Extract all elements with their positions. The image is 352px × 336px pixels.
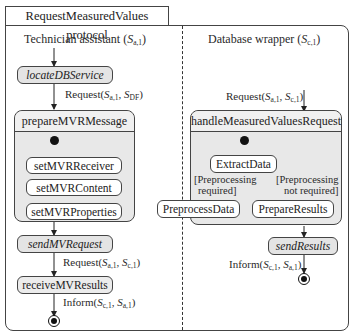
msg-sub: a,1 — [289, 263, 298, 272]
activity-label: ExtractData — [216, 158, 271, 170]
message-request-1: Request(Sa,1, SDF) — [65, 88, 143, 104]
message-request-2: Request(Sa,1, Sc,1) — [63, 256, 140, 272]
activity-label: PrepareResults — [259, 203, 328, 215]
activity-label: setMVRReceiver — [34, 160, 114, 172]
initial-node-icon — [240, 136, 249, 145]
activity-label: sendResults — [276, 240, 330, 252]
activity-label: receiveMVResults — [22, 279, 108, 291]
activity-label: sendMVRequest — [28, 238, 102, 250]
msg-sub: c,1 — [128, 261, 137, 270]
msg-sub: a,1 — [108, 261, 117, 270]
guard-line: [Preprocessing — [194, 174, 256, 185]
composite-title: handleMeasuredValuesRequest — [191, 111, 341, 132]
msg-sub: DF — [130, 93, 140, 102]
guard-preprocessing-required: [Preprocessing required] — [194, 174, 256, 196]
message-inform-1: Inform(Sc,1, Sa,1) — [63, 296, 135, 312]
msg-sub: c,1 — [103, 301, 112, 310]
activity-preprocess-data[interactable]: PreprocessData — [157, 200, 240, 218]
final-node-icon — [298, 273, 310, 285]
activity-prepare-results[interactable]: PrepareResults — [252, 200, 334, 218]
composite-title: prepareMVRMessage — [15, 111, 134, 132]
msg-sub: c,1 — [269, 263, 278, 272]
msg-text: ) — [298, 258, 302, 270]
msg-text: Inform( — [63, 296, 97, 308]
activity-send-results[interactable]: sendResults — [268, 237, 338, 255]
activity-label: locateDBService — [26, 69, 103, 81]
msg-text: ) — [137, 256, 141, 268]
guard-line: [Preprocessing — [276, 174, 338, 185]
msg-sub: a,1 — [271, 95, 280, 104]
activity-set-mvr-receiver[interactable]: setMVRReceiver — [26, 157, 122, 174]
msg-text: Request( — [63, 256, 102, 268]
activity-receive-mv-results[interactable]: receiveMVResults — [17, 276, 113, 294]
initial-node-icon — [50, 136, 59, 145]
guard-line: required] — [194, 185, 256, 196]
msg-sub: c,1 — [291, 95, 300, 104]
message-inform-out: Inform(Sc,1, Sa,1) — [229, 258, 301, 274]
activity-label: setMVRProperties — [31, 206, 117, 218]
activity-set-mvr-content[interactable]: setMVRContent — [26, 179, 122, 196]
message-request-in: Request(Sa,1, Sc,1) — [226, 90, 303, 106]
activity-set-mvr-properties[interactable]: setMVRProperties — [26, 203, 122, 220]
msg-text: ) — [139, 88, 143, 100]
msg-text: Inform( — [229, 258, 263, 270]
activity-label: setMVRContent — [36, 182, 111, 194]
activity-extract-data[interactable]: ExtractData — [210, 155, 277, 173]
guard-preprocessing-not-required: [Preprocessing not required] — [276, 174, 338, 196]
msg-sub: a,1 — [110, 93, 119, 102]
activity-locate-db-service[interactable]: locateDBService — [17, 66, 113, 84]
msg-text: ) — [300, 90, 304, 102]
msg-text: ) — [132, 296, 136, 308]
guard-line: not required] — [276, 185, 338, 196]
msg-sub: a,1 — [123, 301, 132, 310]
msg-text: Request( — [65, 88, 104, 100]
activity-label: PreprocessData — [163, 203, 235, 215]
msg-text: Request( — [226, 90, 265, 102]
final-node-icon — [48, 315, 60, 327]
activity-send-mv-request[interactable]: sendMVRequest — [17, 235, 113, 253]
